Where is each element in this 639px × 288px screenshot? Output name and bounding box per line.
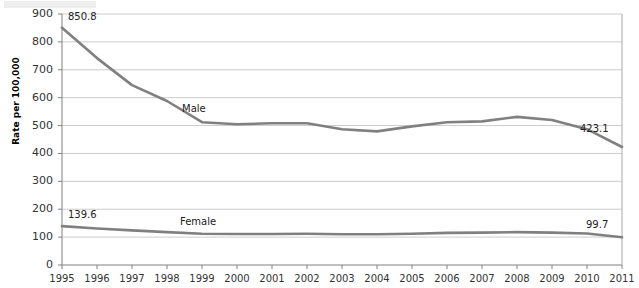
x-tick-label: 1999: [182, 273, 222, 284]
series-line-male: [62, 28, 622, 147]
x-tick-label: 2002: [287, 273, 327, 284]
x-tick-label: 2004: [357, 273, 397, 284]
y-tick-label: 900: [19, 7, 53, 20]
series-line-female: [62, 226, 622, 237]
y-tick-label: 600: [19, 91, 53, 104]
x-tick-label: 1997: [112, 273, 152, 284]
y-tick-label: 0: [19, 258, 53, 271]
x-tick-label: 2000: [217, 273, 257, 284]
y-tick-label: 700: [19, 63, 53, 76]
y-tick-label: 500: [19, 119, 53, 132]
x-tick-label: 2009: [532, 273, 572, 284]
series-label-female: Female: [180, 216, 216, 227]
gridlines: [62, 14, 622, 237]
female-end-value-label: 99.7: [586, 219, 608, 230]
male-start-value-label: 850.8: [68, 11, 97, 22]
female-start-value-label: 139.6: [68, 209, 97, 220]
x-tick-label: 2006: [427, 273, 467, 284]
y-tick-label: 300: [19, 174, 53, 187]
x-tick-label: 2010: [567, 273, 607, 284]
x-tick-label: 2003: [322, 273, 362, 284]
x-tick-label: 2007: [462, 273, 502, 284]
x-tick-label: 1995: [42, 273, 82, 284]
plot-area: [0, 0, 639, 288]
y-tick-label: 100: [19, 230, 53, 243]
series-label-male: Male: [182, 103, 206, 114]
x-tick-label: 2005: [392, 273, 432, 284]
x-tick-label: 1998: [147, 273, 187, 284]
x-tick-label: 1996: [77, 273, 117, 284]
y-tick-label: 400: [19, 146, 53, 159]
y-tick-label: 200: [19, 202, 53, 215]
x-tick-label: 2001: [252, 273, 292, 284]
line-chart: Rate per 100,000 01002003004005006007008…: [0, 0, 639, 288]
y-tick-label: 800: [19, 35, 53, 48]
x-tick-label: 2008: [497, 273, 537, 284]
male-end-value-label: 423.1: [580, 123, 609, 134]
x-tick-label: 2011: [602, 273, 639, 284]
